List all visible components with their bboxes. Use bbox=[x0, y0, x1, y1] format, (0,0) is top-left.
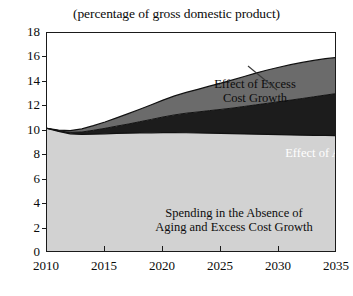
x-tick-mark bbox=[220, 246, 221, 252]
x-tick-label: 2030 bbox=[265, 259, 291, 272]
x-tick-label: 2020 bbox=[149, 259, 175, 272]
x-tick-label: 2035 bbox=[323, 259, 349, 272]
y-tick-label: 16 bbox=[10, 49, 40, 62]
x-tick-mark bbox=[278, 246, 279, 252]
x-tick-label: 2010 bbox=[33, 259, 59, 272]
annotation-spending-absence: Spending in the Absence of Aging and Exc… bbox=[109, 206, 336, 235]
y-tick-label: 12 bbox=[10, 98, 40, 111]
y-tick-mark bbox=[42, 179, 47, 180]
y-tick-label: 6 bbox=[10, 172, 40, 185]
y-tick-mark bbox=[42, 56, 47, 57]
y-tick-mark bbox=[42, 228, 47, 229]
y-tick-label: 2 bbox=[10, 221, 40, 234]
annotation-effect-of-excess-cost-growth: Effect of Excess Cost Growth bbox=[195, 77, 315, 106]
y-tick-mark bbox=[42, 203, 47, 204]
x-tick-label: 2025 bbox=[207, 259, 233, 272]
x-axis: 201020152020202520302035 bbox=[46, 256, 336, 278]
y-tick-mark bbox=[42, 130, 47, 131]
chart-figure: (percentage of gross domestic product) 0… bbox=[0, 0, 353, 296]
y-tick-label: 0 bbox=[10, 245, 40, 258]
y-axis: 024681012141618 bbox=[4, 32, 40, 252]
y-tick-mark bbox=[42, 154, 47, 155]
x-tick-mark bbox=[104, 246, 105, 252]
y-tick-label: 14 bbox=[10, 74, 40, 87]
y-tick-label: 18 bbox=[10, 25, 40, 38]
y-tick-mark bbox=[42, 105, 47, 106]
y-tick-mark bbox=[42, 81, 47, 82]
y-tick-label: 10 bbox=[10, 123, 40, 136]
plot-area: Effect of Excess Cost Growth Effect of A… bbox=[46, 32, 336, 252]
y-tick-label: 8 bbox=[10, 147, 40, 160]
chart-title: (percentage of gross domestic product) bbox=[0, 6, 353, 22]
annotation-effect-of-aging: Effect of Aging bbox=[269, 146, 336, 160]
y-tick-label: 4 bbox=[10, 196, 40, 209]
x-tick-label: 2015 bbox=[91, 259, 117, 272]
x-tick-mark bbox=[162, 246, 163, 252]
